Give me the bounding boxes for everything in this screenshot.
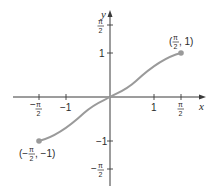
x-tick-label-neg-pi-over-2: − π 2 [30,99,42,117]
svg-text:−: − [91,163,97,174]
svg-text:π: π [173,34,178,41]
svg-text:2: 2 [99,171,103,178]
y-tick-label-neg-1: −1 [96,136,108,147]
svg-text:2: 2 [99,27,103,34]
svg-text:2: 2 [37,110,41,117]
svg-text:2: 2 [179,110,183,117]
x-axis-arrow-icon [199,95,206,100]
y-tick-label-pi-over-2: π 2 [98,18,105,34]
x-tick-label-1: 1 [151,102,157,113]
endpoint-right [178,50,184,56]
endpoint-left [36,138,42,144]
x-tick-label-pi-over-2: π 2 [178,101,185,117]
svg-text:, 1): , 1) [179,36,193,47]
sine-graph: x y − π 2 −1 1 π 2 [0,0,218,192]
svg-text:2: 2 [30,155,34,162]
svg-text:2: 2 [174,43,178,50]
svg-text:, −1): , −1) [35,148,55,159]
svg-text:π: π [98,162,103,169]
y-axis-arrow-icon [108,10,113,17]
svg-text:π: π [29,146,34,153]
svg-text:(−: (− [19,148,28,159]
svg-text:π: π [36,101,41,108]
x-tick-label-neg-1: −1 [60,102,72,113]
annotation-right-point: ( π 2 , 1) [169,34,193,50]
svg-text:π: π [98,18,103,25]
y-tick-label-neg-pi-over-2: − π 2 [91,162,104,178]
y-tick-label-1: 1 [99,48,105,59]
annotation-left-point: (− π 2 , −1) [19,146,55,162]
x-axis-label: x [198,100,204,112]
svg-text:π: π [178,101,183,108]
